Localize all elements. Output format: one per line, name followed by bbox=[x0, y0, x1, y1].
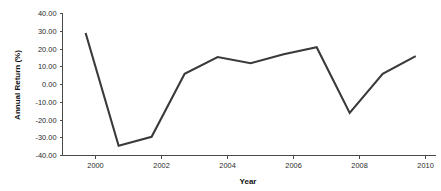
x-tick-label: 2010 bbox=[417, 161, 433, 170]
x-tick-label: 2002 bbox=[153, 161, 169, 170]
x-tick-label: 2000 bbox=[87, 161, 103, 170]
y-tick-label: -10.00 bbox=[36, 98, 57, 107]
x-tick-label: 2006 bbox=[285, 161, 301, 170]
x-tick-label: 2004 bbox=[219, 161, 235, 170]
x-axis-title: Year bbox=[240, 177, 257, 186]
x-axis-group: 200020022004200620082010 bbox=[63, 156, 436, 170]
y-tick-label: 30.00 bbox=[38, 27, 57, 36]
y-axis-group: 40.0030.0020.0010.000.00-10.00-20.00-30.… bbox=[36, 9, 63, 160]
chart-canvas: 40.0030.0020.0010.000.00-10.00-20.00-30.… bbox=[0, 0, 441, 191]
y-tick-label: 10.00 bbox=[38, 62, 57, 71]
y-tick-label: -20.00 bbox=[36, 116, 57, 125]
x-tick-label: 2008 bbox=[351, 161, 367, 170]
y-tick-label: 40.00 bbox=[38, 9, 57, 18]
x-axis-tick-labels: 200020022004200620082010 bbox=[87, 161, 434, 170]
y-tick-label: 0.00 bbox=[42, 80, 56, 89]
y-axis-tick-labels: 40.0030.0020.0010.000.00-10.00-20.00-30.… bbox=[36, 9, 57, 160]
annual-return-series-line bbox=[86, 33, 416, 146]
y-tick-label: -40.00 bbox=[36, 151, 57, 160]
annual-return-line-chart: 40.0030.0020.0010.000.00-10.00-20.00-30.… bbox=[0, 0, 441, 191]
y-tick-label: -30.00 bbox=[36, 133, 57, 142]
y-tick-label: 20.00 bbox=[38, 45, 57, 54]
y-axis-title: Annual Return (%) bbox=[13, 50, 22, 120]
